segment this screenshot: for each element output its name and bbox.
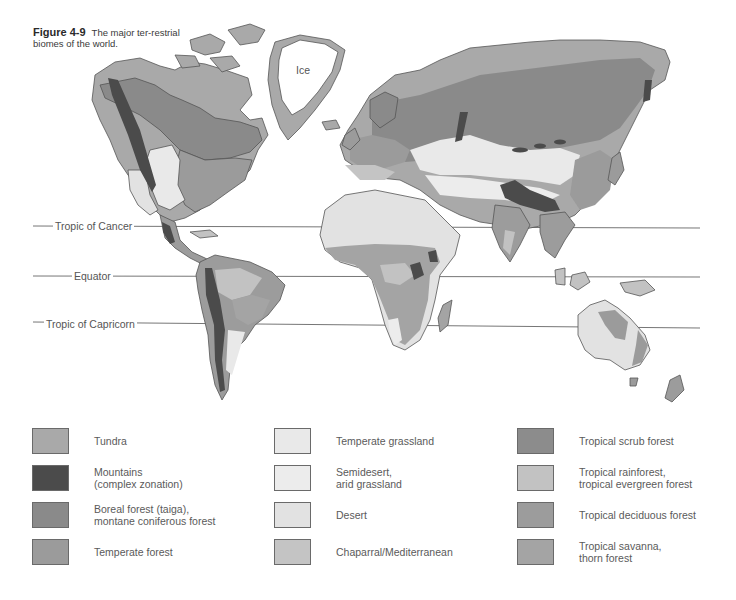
legend-item-temperate-forest: Temperate forest [32, 539, 173, 565]
legend-label: Temperate grassland [336, 428, 434, 447]
legend-label: Tropical scrub forest [579, 428, 674, 447]
legend-item-temperate-grassland: Temperate grassland [274, 428, 434, 454]
legend-label: Tropical rainforest, tropical evergreen … [579, 465, 692, 490]
temperate-grassland-swatch [274, 428, 311, 454]
tropical-scrub-swatch [517, 428, 554, 454]
australia [555, 268, 684, 402]
legend-item-semidesert: Semidesert, arid grassland [274, 465, 402, 491]
legend-label: Mountains (complex zonation) [94, 465, 183, 490]
chaparral-swatch [274, 539, 311, 565]
legend-label: Tundra [94, 428, 127, 447]
tropic-of-cancer-label: Tropic of Cancer [53, 220, 134, 232]
legend-item-tropical-savanna: Tropical savanna, thorn forest [517, 539, 662, 565]
legend-label: Boreal forest (taiga), montane coniferou… [94, 502, 215, 527]
tundra-swatch [32, 428, 69, 454]
legend-item-tropical-rainforest: Tropical rainforest, tropical evergreen … [517, 465, 692, 491]
tropic-of-capricorn-label: Tropic of Capricorn [44, 318, 137, 330]
legend-label: Desert [336, 502, 367, 521]
tropical-deciduous-swatch [517, 502, 554, 528]
legend-item-tundra: Tundra [32, 428, 127, 454]
legend-item-mountains: Mountains (complex zonation) [32, 465, 183, 491]
semidesert-swatch [274, 465, 311, 491]
mountains-swatch [32, 465, 69, 491]
iceland [322, 120, 340, 130]
legend-label: Semidesert, arid grassland [336, 465, 402, 490]
boreal-swatch [32, 502, 69, 528]
legend-label: Tropical savanna, thorn forest [579, 539, 662, 564]
tropical-rainforest-swatch [517, 465, 554, 491]
legend-item-desert: Desert [274, 502, 367, 528]
legend-item-chaparral: Chaparral/Mediterranean [274, 539, 453, 565]
tropical-savanna-swatch [517, 539, 554, 565]
legend-label: Chaparral/Mediterranean [336, 539, 453, 558]
ice-label: Ice [294, 64, 312, 76]
legend-item-boreal: Boreal forest (taiga), montane coniferou… [32, 502, 215, 528]
legend-item-tropical-deciduous: Tropical deciduous forest [517, 502, 696, 528]
world-biome-map [0, 0, 736, 420]
legend-label: Tropical deciduous forest [579, 502, 696, 521]
africa [320, 190, 460, 350]
equator-label: Equator [72, 270, 113, 282]
temperate-forest-swatch [32, 539, 69, 565]
legend-label: Temperate forest [94, 539, 173, 558]
desert-swatch [274, 502, 311, 528]
equator-line [33, 276, 700, 277]
legend-item-tropical-scrub: Tropical scrub forest [517, 428, 674, 454]
south-america [196, 255, 285, 400]
